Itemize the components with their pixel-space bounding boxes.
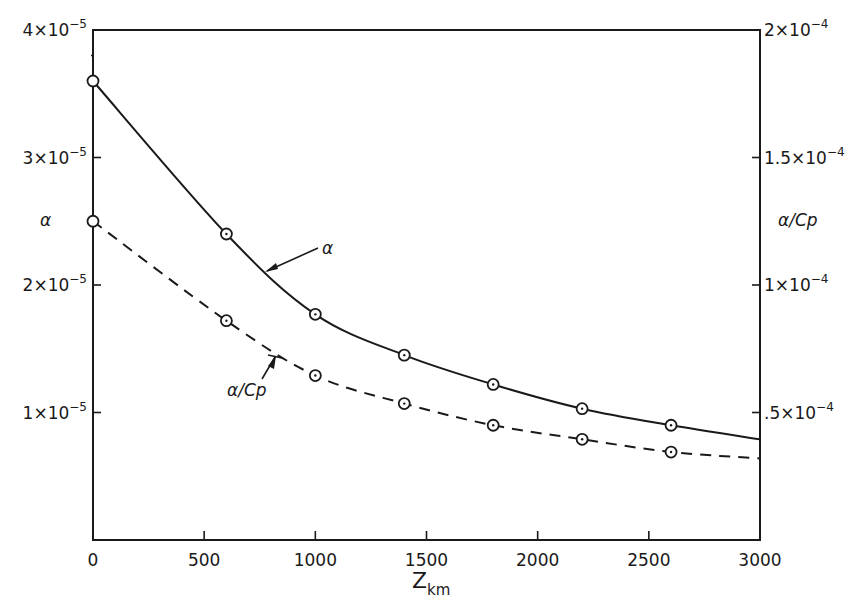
left-y-tick-label: 3×10−5 [23, 145, 87, 168]
series-alpha-over-cp-marker [666, 447, 677, 458]
right-y-tick-label: .5×10−4 [764, 400, 834, 423]
series-alpha-marker [488, 379, 499, 390]
x-tick-label: 1500 [405, 550, 448, 570]
right-y-tick-label: 1.5×10−4 [764, 145, 845, 168]
series-alpha-marker [88, 76, 99, 87]
plot-frame [93, 30, 760, 540]
series-alpha-marker [221, 229, 232, 240]
series-alpha-marker [666, 420, 677, 431]
chart-canvas: 050010001500200025003000 1×10−52×10−53×1… [0, 0, 860, 616]
series-alpha-over-cp-marker [221, 315, 232, 326]
right-y-tick-label: 1×10−4 [764, 272, 828, 295]
left-y-axis-title: α [40, 210, 51, 230]
x-tick-label: 500 [188, 550, 220, 570]
arrowhead-icon [265, 263, 278, 272]
series-alpha-over-cp-label: α/Cp [227, 380, 267, 400]
x-axis-title: Zkm [412, 568, 450, 599]
series-alpha-label: α [322, 238, 333, 258]
series-alpha-marker [577, 403, 588, 414]
x-tick-label: 2500 [627, 550, 670, 570]
right-y-axis-title: α/Cp [778, 210, 818, 230]
left-y-tick-label: 2×10−5 [23, 272, 87, 295]
x-axis: 050010001500200025003000 [88, 531, 782, 570]
x-tick-label: 3000 [738, 550, 781, 570]
series-alpha-marker [310, 309, 321, 320]
left-y-tick-label: 4×10−5 [23, 17, 87, 40]
series-alpha-marker [399, 350, 410, 361]
x-tick-label: 0 [88, 550, 99, 570]
x-tick-label: 1000 [294, 550, 337, 570]
series-alpha-over-cp-marker [310, 370, 321, 381]
x-axis-title-main: Z [412, 568, 427, 593]
left-y-tick-label: 1×10−5 [23, 400, 87, 423]
series-alpha-line [93, 81, 760, 439]
x-tick-label: 2000 [516, 550, 559, 570]
series-alpha-over-cp-marker [88, 216, 99, 227]
series-alpha-over-cp-marker [399, 398, 410, 409]
series-alpha-over-cp-marker [577, 434, 588, 445]
x-axis-title-sub: km [427, 581, 450, 599]
series-layer [88, 76, 761, 459]
chart: 050010001500200025003000 1×10−52×10−53×1… [0, 0, 860, 616]
right-y-tick-label: 2×10−4 [764, 17, 828, 40]
series-alpha-over-cp-marker [488, 420, 499, 431]
